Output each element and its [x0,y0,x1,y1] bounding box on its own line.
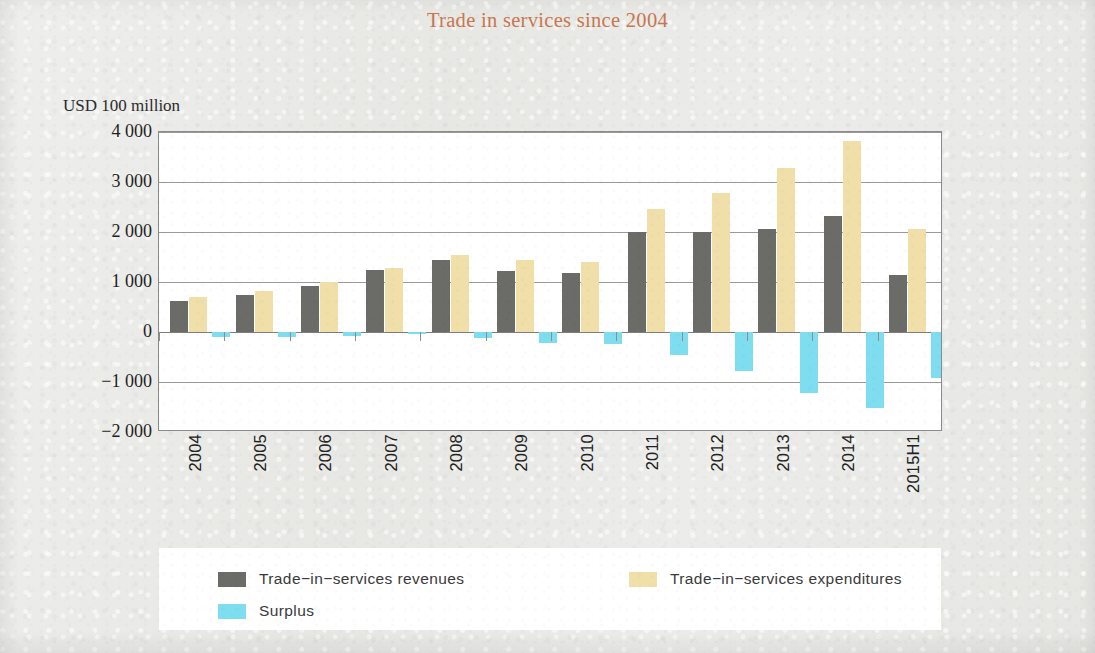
bar-revenues [562,273,580,332]
legend-label-revenues: Trade−in−services revenues [259,570,464,588]
x-axis-tick-labels: 2004200520062007200820092010201120122013… [158,432,942,532]
bar-revenues [824,216,842,332]
bar-expenditures [255,291,273,333]
bar-surplus [278,332,296,337]
x-axis-tick [420,332,421,341]
x-tick-label: 2014 [839,434,858,472]
plot-inner [159,132,941,430]
bar-revenues [170,301,188,332]
bar-surplus [539,332,557,343]
plot-area [158,131,942,431]
bar-expenditures [189,297,207,333]
bar-expenditures [647,209,665,332]
chart-title: Trade in services since 2004 [0,9,1095,32]
chart-legend: Trade−in−services revenues Trade−in−serv… [159,548,941,630]
bar-surplus [474,332,492,338]
x-axis-tick [616,332,617,341]
bar-surplus [408,332,426,334]
x-axis-tick [355,332,356,341]
legend-label-expenditures: Trade−in−services expenditures [670,570,902,588]
x-tick-label: 2011 [643,434,662,470]
x-axis-tick [747,332,748,341]
y-tick-label: −2 000 [56,421,152,442]
y-tick-label: −1 000 [56,371,152,392]
legend-swatch-surplus [218,604,246,619]
x-axis-tick [682,332,683,341]
x-tick-label: 2008 [447,434,466,472]
bar-revenues [758,229,776,333]
bar-revenues [889,275,907,332]
x-axis-tick [878,332,879,341]
legend-swatch-revenues [218,572,246,587]
bar-expenditures [516,260,534,332]
bar-revenues [236,295,254,332]
bar-revenues [366,270,384,333]
x-tick-label: 2015H1 [904,434,923,493]
bar-surplus [800,332,818,393]
x-tick-label: 2006 [316,434,335,472]
bar-expenditures [908,229,926,332]
bar-expenditures [843,141,861,333]
bar-surplus [931,332,941,378]
bar-expenditures [451,255,469,333]
bar-surplus [604,332,622,344]
bar-expenditures [385,268,403,333]
x-axis-tick [224,332,225,341]
x-axis-tick [551,332,552,341]
legend-item-expenditures: Trade−in−services expenditures [629,570,902,588]
legend-label-surplus: Surplus [259,602,314,620]
y-axis-unit-label: USD 100 million [63,96,180,116]
bar-surplus [735,332,753,371]
bar-expenditures [320,282,338,332]
gridline [159,132,941,133]
y-tick-label: 1 000 [56,271,152,292]
y-tick-label: 0 [56,321,152,342]
y-tick-label: 4 000 [56,121,152,142]
legend-item-revenues: Trade−in−services revenues [218,570,464,588]
bar-expenditures [581,262,599,333]
x-tick-label: 2005 [251,434,270,472]
x-tick-label: 2009 [512,434,531,472]
bar-revenues [693,232,711,333]
bar-surplus [866,332,884,408]
x-tick-label: 2007 [382,434,401,472]
bar-expenditures [712,193,730,333]
x-axis-tick [290,332,291,341]
legend-swatch-expenditures [629,572,657,587]
bar-revenues [497,271,515,333]
gridline [159,382,941,383]
x-axis-tick [159,332,160,341]
x-axis-tick [486,332,487,341]
bar-surplus [670,332,688,355]
y-tick-label: 3 000 [56,171,152,192]
bar-revenues [432,260,450,332]
bar-surplus [343,332,361,336]
bar-surplus [212,332,230,337]
gridline [159,182,941,183]
x-tick-label: 2004 [186,434,205,472]
x-tick-label: 2010 [578,434,597,472]
legend-item-surplus: Surplus [218,602,314,620]
bar-expenditures [777,168,795,333]
x-axis-tick [812,332,813,341]
chart-figure: Trade in services since 2004 USD 100 mil… [0,0,1095,653]
bar-revenues [628,232,646,332]
y-tick-label: 2 000 [56,221,152,242]
y-axis-tick-labels: 4 0003 0002 0001 0000−1 000−2 000 [52,131,152,431]
x-tick-label: 2013 [774,434,793,472]
x-tick-label: 2012 [708,434,727,472]
bar-revenues [301,286,319,332]
